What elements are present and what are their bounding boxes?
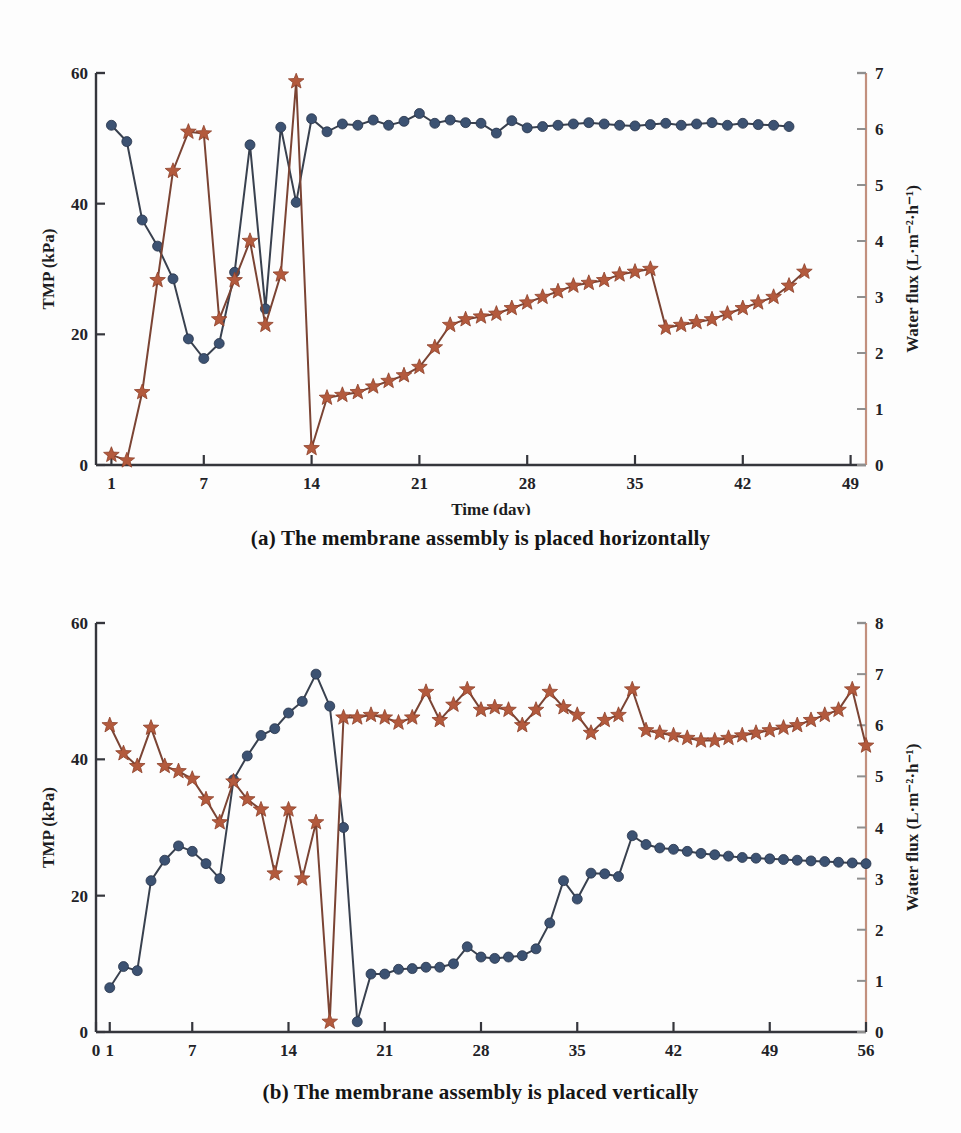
y-tick-label-right: 3 bbox=[875, 288, 884, 307]
data-point-tmp bbox=[380, 969, 390, 979]
data-point-flux bbox=[504, 300, 520, 315]
data-point-tmp bbox=[792, 855, 802, 865]
data-point-flux bbox=[720, 306, 736, 321]
data-point-tmp bbox=[531, 944, 541, 954]
data-point-tmp bbox=[201, 859, 211, 869]
caption-panel-a: (a) The membrane assembly is placed hori… bbox=[0, 526, 961, 551]
data-point-flux bbox=[487, 699, 503, 714]
data-point-tmp bbox=[490, 953, 500, 963]
data-point-tmp bbox=[707, 118, 717, 128]
data-point-tmp bbox=[806, 856, 816, 866]
y-tick-label-right: 6 bbox=[875, 120, 884, 139]
y-tick-label-left: 0 bbox=[80, 456, 89, 475]
data-point-tmp bbox=[449, 959, 459, 969]
data-point-tmp bbox=[430, 118, 440, 128]
data-point-tmp bbox=[245, 140, 255, 150]
data-point-flux bbox=[596, 272, 612, 287]
data-point-flux bbox=[831, 702, 847, 717]
data-point-tmp bbox=[183, 334, 193, 344]
y-tick-label-left: 40 bbox=[71, 195, 88, 214]
y-tick-label-right: 4 bbox=[875, 232, 884, 251]
data-point-tmp bbox=[682, 846, 692, 856]
data-point-tmp bbox=[507, 116, 517, 126]
data-point-tmp bbox=[119, 962, 129, 972]
y-tick-label-left: 40 bbox=[71, 750, 88, 769]
data-point-flux bbox=[304, 440, 320, 455]
y-tick-label-right: 1 bbox=[875, 400, 884, 419]
data-point-tmp bbox=[187, 846, 197, 856]
y-axis-title-right: Water flux (L·m⁻²·h⁻¹) bbox=[903, 185, 922, 353]
data-point-flux bbox=[643, 261, 659, 276]
data-point-tmp bbox=[414, 109, 424, 119]
x-tick-label: 14 bbox=[303, 474, 321, 493]
series-markers-flux bbox=[104, 73, 813, 467]
data-point-flux bbox=[721, 730, 737, 745]
data-point-tmp bbox=[284, 708, 294, 718]
data-point-tmp bbox=[738, 118, 748, 128]
data-point-tmp bbox=[655, 843, 665, 853]
y-axis-title-left: TMP (kPa) bbox=[39, 229, 58, 310]
x-tick-label: 42 bbox=[665, 1041, 682, 1060]
y-tick-label-right: 2 bbox=[875, 344, 884, 363]
data-point-flux bbox=[473, 702, 489, 717]
x-tick-label: 21 bbox=[376, 1041, 393, 1060]
data-point-tmp bbox=[645, 120, 655, 130]
data-point-flux bbox=[748, 725, 764, 740]
figure-panel-b: 020406001234567801714212835424956Time (d… bbox=[0, 580, 961, 1133]
data-point-tmp bbox=[399, 116, 409, 126]
data-point-flux bbox=[294, 870, 310, 885]
data-point-flux bbox=[381, 373, 397, 388]
data-point-flux bbox=[581, 275, 597, 290]
series-markers-tmp bbox=[105, 669, 871, 1027]
data-point-flux bbox=[762, 722, 778, 737]
data-point-flux bbox=[638, 722, 654, 737]
plot-b: 020406001234567801714212835424956Time (d… bbox=[0, 580, 961, 1070]
data-point-tmp bbox=[325, 701, 335, 711]
data-point-flux bbox=[396, 367, 412, 382]
caption-panel-b: (b) The membrane assembly is placed vert… bbox=[0, 1080, 961, 1105]
data-point-tmp bbox=[106, 120, 116, 130]
y-tick-label-left: 20 bbox=[71, 887, 88, 906]
data-point-flux bbox=[704, 311, 720, 326]
data-point-tmp bbox=[215, 874, 225, 884]
data-point-tmp bbox=[337, 119, 347, 129]
data-point-tmp bbox=[568, 119, 578, 129]
data-point-flux bbox=[611, 707, 627, 722]
data-point-tmp bbox=[614, 872, 624, 882]
data-point-tmp bbox=[769, 120, 779, 130]
x-tick-label: 7 bbox=[188, 1041, 197, 1060]
y-tick-label-right: 7 bbox=[875, 665, 884, 684]
data-point-tmp bbox=[199, 354, 209, 364]
series-line-flux bbox=[111, 81, 804, 460]
y-tick-label-right: 5 bbox=[875, 176, 884, 195]
data-point-flux bbox=[377, 709, 393, 724]
data-point-tmp bbox=[160, 855, 170, 865]
y-tick-label-right: 4 bbox=[875, 819, 884, 838]
data-point-tmp bbox=[311, 669, 321, 679]
data-point-flux bbox=[519, 294, 535, 309]
data-point-flux bbox=[666, 727, 682, 742]
data-point-tmp bbox=[122, 137, 132, 147]
x-tick-label: 21 bbox=[411, 474, 428, 493]
data-point-tmp bbox=[307, 114, 317, 124]
x-tick-label: 7 bbox=[200, 474, 209, 493]
y-tick-label-right: 8 bbox=[875, 614, 884, 633]
x-tick-label: 49 bbox=[761, 1041, 778, 1060]
figure-panel-a: 02040600123456717142128354249Time (day)T… bbox=[0, 0, 961, 580]
data-point-tmp bbox=[538, 122, 548, 132]
y-tick-label-right: 1 bbox=[875, 972, 884, 991]
y-tick-label-right: 6 bbox=[875, 716, 884, 735]
data-point-tmp bbox=[765, 854, 775, 864]
data-point-tmp bbox=[339, 823, 349, 833]
data-point-flux bbox=[267, 865, 283, 880]
data-point-tmp bbox=[661, 118, 671, 128]
data-point-flux bbox=[212, 814, 228, 829]
data-point-tmp bbox=[407, 964, 417, 974]
data-point-flux bbox=[363, 707, 379, 722]
data-point-tmp bbox=[676, 120, 686, 130]
data-point-tmp bbox=[599, 119, 609, 129]
data-point-flux bbox=[501, 702, 517, 717]
data-point-tmp bbox=[461, 118, 471, 128]
data-point-flux bbox=[459, 681, 475, 696]
y-tick-label-left: 60 bbox=[71, 614, 88, 633]
